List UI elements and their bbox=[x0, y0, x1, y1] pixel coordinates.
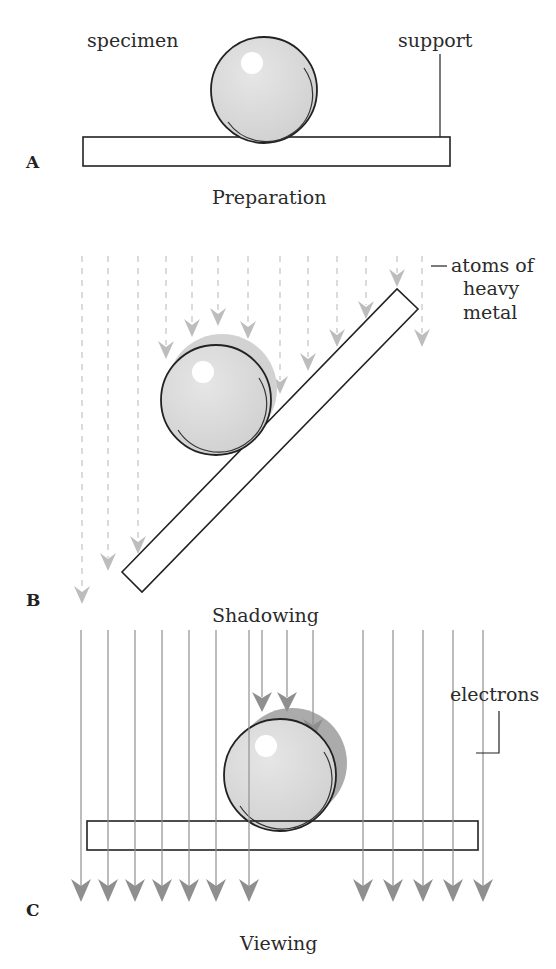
panel-c: electrons C Viewing bbox=[26, 630, 539, 954]
shadowing-diagram: specimen support A Preparation bbox=[0, 0, 556, 969]
specimen-label: specimen bbox=[87, 29, 178, 51]
atoms-label-line3: metal bbox=[463, 301, 517, 323]
caption-preparation: Preparation bbox=[212, 186, 326, 208]
support-label: support bbox=[398, 29, 473, 51]
electron-arrowheads bbox=[71, 879, 493, 902]
panel-letter-a: A bbox=[25, 152, 40, 172]
specimen-sphere-c bbox=[224, 719, 336, 831]
caption-viewing: Viewing bbox=[239, 932, 317, 954]
panel-letter-c: C bbox=[26, 900, 40, 920]
specimen-sphere-a bbox=[211, 37, 317, 143]
panel-a: specimen support A Preparation bbox=[25, 29, 473, 208]
electrons-label: electrons bbox=[450, 683, 539, 705]
support-b-tilted bbox=[122, 289, 418, 592]
atoms-label-line1: atoms of bbox=[451, 254, 536, 276]
atoms-label-line2: heavy bbox=[463, 277, 520, 299]
panel-b: atoms of heavy metal B Shadowing bbox=[26, 254, 536, 626]
caption-shadowing: Shadowing bbox=[212, 604, 319, 626]
specimen-sphere-b bbox=[161, 345, 271, 455]
electrons-leader bbox=[476, 711, 499, 753]
panel-letter-b: B bbox=[26, 590, 40, 610]
